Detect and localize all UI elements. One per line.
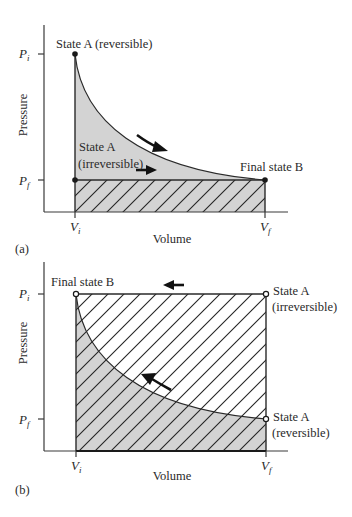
panel-tag-b: (b) [15, 483, 30, 497]
label-final-state-b: Final state B [240, 160, 303, 174]
label-state-a-reversible-1: State A [273, 410, 309, 424]
state-a-reversible-marker [72, 51, 78, 57]
label-state-a-irreversible-2: (irreversible) [78, 157, 143, 171]
label-state-a-irreversible-2: (irreversible) [272, 300, 337, 314]
tick-label-vf: Vf [261, 458, 273, 475]
y-axis-label: Pressure [16, 93, 30, 136]
panel-a: State A (reversible) State A (irreversib… [15, 25, 303, 256]
panel-b: Final state B State A (irreversible) Sta… [15, 262, 337, 497]
tick-label-pi: Pi [18, 46, 30, 63]
label-state-a-irreversible-1: State A [79, 140, 115, 154]
pv-diagram-figure: State A (reversible) State A (irreversib… [0, 0, 352, 517]
y-axis-label: Pressure [16, 321, 30, 364]
tick-label-vi: Vi [71, 458, 82, 475]
panel-tag-a: (a) [15, 242, 29, 256]
state-a-irreversible-marker [72, 177, 78, 183]
label-state-a-reversible: State A (reversible) [56, 37, 153, 51]
label-state-a-irreversible-1: State A [273, 284, 309, 298]
x-axis-label: Volume [153, 232, 192, 246]
tick-label-vi: Vi [70, 219, 81, 236]
tick-label-pf: Pf [18, 412, 31, 429]
irreversible-work-area [76, 294, 266, 451]
irreversible-work-area [75, 180, 265, 212]
label-final-state-b: Final state B [51, 275, 114, 289]
label-state-a-reversible-2: (reversible) [272, 426, 330, 440]
arrow-left-icon [163, 280, 184, 290]
x-axis-label: Volume [153, 469, 192, 483]
tick-label-pf: Pf [18, 173, 31, 190]
state-a-irreversible-marker [263, 291, 268, 296]
final-state-b-marker [73, 291, 78, 296]
state-a-reversible-marker [263, 416, 268, 421]
tick-label-pi: Pi [18, 286, 30, 303]
tick-label-vf: Vf [260, 219, 272, 236]
final-state-b-marker [262, 177, 268, 183]
